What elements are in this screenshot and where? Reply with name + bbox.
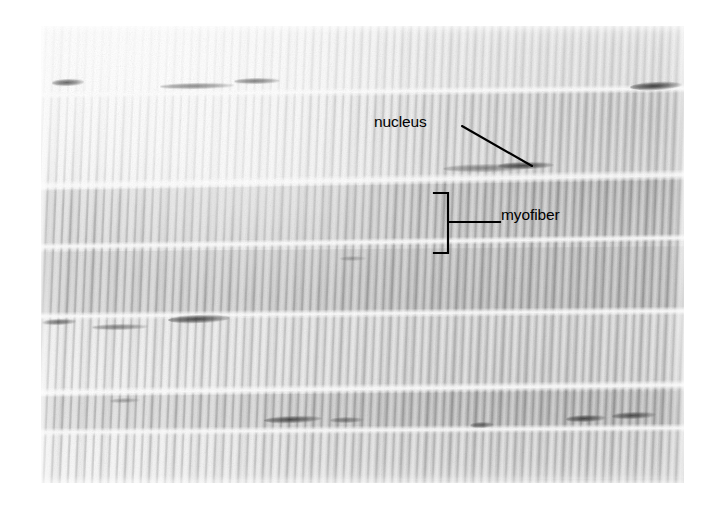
nucleus-blob xyxy=(340,255,366,260)
micrograph-figure: nucleus myofiber xyxy=(0,0,703,508)
nucleus-label: nucleus xyxy=(374,114,427,130)
micrograph-plate xyxy=(41,26,684,483)
myofiber-label: myofiber xyxy=(501,207,560,223)
myofiber-band xyxy=(41,431,684,483)
